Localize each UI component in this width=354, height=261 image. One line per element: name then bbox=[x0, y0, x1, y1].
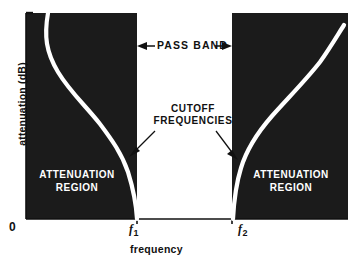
passband-arrowhead-left bbox=[137, 42, 147, 50]
x-axis-origin-label: 0 bbox=[9, 220, 16, 234]
filter-response-figure: attenuation (dB) frequency 0 f1 f2 PASS … bbox=[0, 0, 354, 261]
x-axis-label: frequency bbox=[130, 243, 183, 255]
x-tick-label-f1: f1 bbox=[129, 222, 139, 238]
y-axis-label: attenuation (dB) bbox=[16, 44, 28, 164]
passband-annotation-label: PASS BAND bbox=[157, 39, 228, 51]
x-tick-label-f2: f2 bbox=[238, 222, 248, 238]
right-attenuation-region-label: ATTENUATION REGION bbox=[238, 169, 344, 194]
cutoff-frequencies-annotation-label: CUTOFF FREQUENCIES bbox=[150, 103, 236, 127]
f2-subscript: 2 bbox=[242, 228, 247, 238]
f1-subscript: 1 bbox=[133, 228, 138, 238]
left-attenuation-region-label: ATTENUATION REGION bbox=[25, 169, 129, 194]
